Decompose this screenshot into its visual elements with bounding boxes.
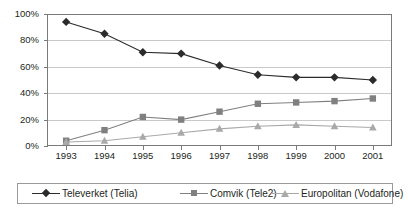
legend-marker-diamond-icon bbox=[32, 188, 60, 199]
series-2 bbox=[63, 95, 376, 144]
series-3 bbox=[62, 121, 376, 145]
data-point-marker bbox=[330, 73, 338, 81]
data-point-marker bbox=[216, 108, 222, 114]
x-axis-tick bbox=[220, 146, 221, 150]
x-axis-tick bbox=[143, 146, 144, 150]
legend-marker-square-icon bbox=[180, 188, 208, 199]
legend-label: Comvik (Tele2) bbox=[208, 188, 277, 199]
data-point-marker bbox=[370, 95, 376, 101]
x-axis-tick bbox=[373, 146, 374, 150]
data-point-marker bbox=[331, 98, 337, 104]
x-axis-tick bbox=[296, 146, 297, 150]
x-axis-tick bbox=[66, 146, 67, 150]
legend-item[interactable]: Europolitan (Vodafone) bbox=[271, 188, 403, 199]
series-line bbox=[66, 98, 373, 140]
x-axis-tick bbox=[181, 146, 182, 150]
data-point-marker bbox=[293, 99, 299, 105]
legend-item[interactable]: Comvik (Tele2) bbox=[180, 188, 277, 199]
legend-label: Europolitan (Vodafone) bbox=[299, 188, 403, 199]
data-point-marker bbox=[255, 101, 261, 107]
series-1 bbox=[62, 18, 377, 84]
data-point-marker bbox=[292, 73, 300, 81]
legend-item[interactable]: Televerket (Telia) bbox=[32, 188, 138, 199]
data-point-marker bbox=[100, 30, 108, 38]
data-point-marker bbox=[140, 114, 146, 120]
series-layer bbox=[0, 0, 409, 214]
legend-marker-triangle-icon bbox=[271, 188, 299, 199]
data-point-marker bbox=[369, 76, 377, 84]
legend-label: Televerket (Telia) bbox=[60, 188, 138, 199]
series-line bbox=[66, 22, 373, 80]
chart-container: 0%20%40%60%80%100% 199319941995199619971… bbox=[0, 0, 409, 214]
x-axis-tick bbox=[335, 146, 336, 150]
x-axis-tick bbox=[258, 146, 259, 150]
x-axis-tick bbox=[105, 146, 106, 150]
data-point-marker bbox=[101, 127, 107, 133]
data-point-marker bbox=[215, 61, 223, 69]
chart-legend: Televerket (Telia)Comvik (Tele2)Europoli… bbox=[17, 183, 393, 204]
data-point-marker bbox=[139, 48, 147, 56]
data-point-marker bbox=[178, 116, 184, 122]
data-point-marker bbox=[177, 49, 185, 57]
data-point-marker bbox=[62, 18, 70, 26]
data-point-marker bbox=[254, 71, 262, 79]
data-point-marker bbox=[292, 121, 300, 128]
